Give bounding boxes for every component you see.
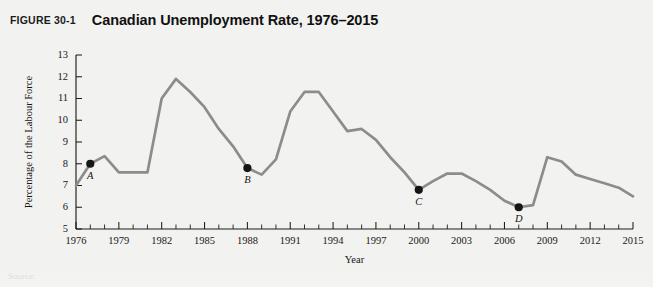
data-point-label-a: A bbox=[86, 170, 94, 181]
x-axis-tick-label: 1994 bbox=[323, 235, 345, 246]
x-axis-tick-label: 2015 bbox=[623, 235, 644, 246]
x-axis-tick-label: 1985 bbox=[194, 235, 215, 246]
y-axis-title: Percentage of the Labour Force bbox=[23, 75, 34, 208]
y-axis-tick-label: 7 bbox=[63, 179, 68, 190]
x-axis-tick-label: 1976 bbox=[66, 235, 87, 246]
y-axis-tick-label: 5 bbox=[63, 223, 68, 234]
x-axis-tick-label: 1982 bbox=[151, 235, 172, 246]
x-axis-tick-label: 1979 bbox=[108, 235, 129, 246]
data-point-marker-b bbox=[243, 164, 251, 172]
x-axis-tick-label: 2000 bbox=[408, 235, 429, 246]
figure-header: FIGURE 30-1 Canadian Unemployment Rate, … bbox=[0, 7, 653, 33]
data-point-marker-c bbox=[415, 186, 423, 194]
y-axis-tick-label: 9 bbox=[63, 136, 68, 147]
data-point-label-b: B bbox=[244, 174, 251, 185]
data-point-label-c: C bbox=[415, 196, 423, 207]
data-point-marker-a bbox=[86, 160, 94, 168]
data-point-label-d: D bbox=[514, 213, 523, 224]
footer-text: Source: bbox=[0, 273, 653, 281]
chart-panel: 5678910111213197619791982198519881991199… bbox=[0, 33, 653, 273]
figure-screenshot: FIGURE 30-1 Canadian Unemployment Rate, … bbox=[0, 0, 653, 287]
y-axis-tick-label: 13 bbox=[58, 49, 69, 60]
y-axis-tick-label: 11 bbox=[58, 92, 68, 103]
figure-title: Canadian Unemployment Rate, 1976–2015 bbox=[76, 12, 378, 28]
x-axis-tick-label: 1988 bbox=[237, 235, 258, 246]
x-axis-tick-label: 1997 bbox=[365, 235, 386, 246]
data-point-marker-d bbox=[515, 203, 523, 211]
y-axis-tick-label: 10 bbox=[58, 114, 69, 125]
x-axis-tick-label: 2009 bbox=[537, 235, 558, 246]
x-axis-tick-label: 2012 bbox=[580, 235, 601, 246]
footer-partial-text: Source: bbox=[0, 273, 653, 287]
x-axis-tick-label: 1991 bbox=[280, 235, 301, 246]
y-axis-tick-label: 12 bbox=[58, 71, 69, 82]
x-axis-title: Year bbox=[345, 254, 365, 265]
y-axis-tick-label: 8 bbox=[63, 158, 68, 169]
x-axis-tick-label: 2006 bbox=[494, 235, 515, 246]
x-axis-tick-label: 2003 bbox=[451, 235, 472, 246]
line-chart: 5678910111213197619791982198519881991199… bbox=[0, 33, 653, 273]
figure-number: FIGURE 30-1 bbox=[0, 14, 76, 26]
y-axis-tick-label: 6 bbox=[63, 201, 68, 212]
data-series-line bbox=[76, 79, 633, 207]
